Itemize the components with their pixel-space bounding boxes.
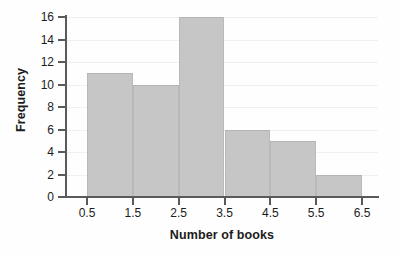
- histogram-bar: [179, 17, 225, 197]
- histogram-bar: [270, 141, 316, 197]
- x-tick-mark: [361, 198, 363, 205]
- histogram-bar: [133, 85, 179, 198]
- x-tick-label: 6.5: [340, 206, 384, 220]
- histogram-bar: [87, 73, 133, 197]
- x-tick-mark: [269, 198, 271, 205]
- histogram-bar: [316, 175, 362, 198]
- x-axis-line: [66, 196, 379, 198]
- histogram-figure: Frequency 0246810121416 0.51.52.53.54.55…: [0, 0, 398, 257]
- x-tick-mark: [132, 198, 134, 205]
- y-axis-line: [65, 15, 67, 198]
- x-tick-label: 2.5: [157, 206, 201, 220]
- y-tick-label: 2: [2, 168, 54, 182]
- x-axis-title: Number of books: [66, 228, 378, 242]
- x-tick-mark: [315, 198, 317, 205]
- x-tick-label: 4.5: [248, 206, 292, 220]
- y-tick-label: 4: [2, 145, 54, 159]
- y-tick-label: 6: [2, 123, 54, 137]
- x-tick-label: 0.5: [65, 206, 109, 220]
- y-tick-label: 14: [2, 33, 54, 47]
- y-tick-label: 0: [2, 190, 54, 204]
- histogram-bar: [225, 130, 271, 198]
- plot-area: [66, 17, 378, 197]
- y-tick-label: 12: [2, 55, 54, 69]
- y-tick-label: 10: [2, 78, 54, 92]
- x-tick-mark: [224, 198, 226, 205]
- y-tick-label: 16: [2, 10, 54, 24]
- x-tick-mark: [86, 198, 88, 205]
- y-tick-label: 8: [2, 100, 54, 114]
- x-tick-label: 1.5: [111, 206, 155, 220]
- x-tick-label: 3.5: [203, 206, 247, 220]
- x-tick-mark: [178, 198, 180, 205]
- x-tick-label: 5.5: [294, 206, 338, 220]
